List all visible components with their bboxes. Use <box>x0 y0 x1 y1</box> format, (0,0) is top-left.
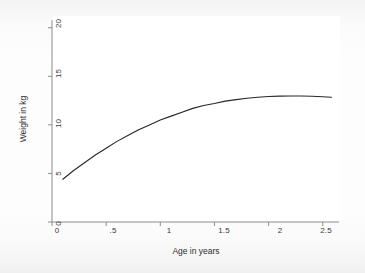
y-axis-ticks <box>48 28 52 222</box>
chart-figure: 0 .5 1 1.5 2 2.5 0 5 10 15 20 Age in yea… <box>0 0 365 273</box>
weight-curve <box>63 96 332 179</box>
y-tick-label-4: 20 <box>54 16 63 32</box>
x-axis-title: Age in years <box>172 246 219 256</box>
y-tick-label-2: 10 <box>54 116 63 132</box>
y-tick-label-1: 5 <box>54 167 63 181</box>
y-tick-label-3: 15 <box>54 66 63 82</box>
x-tick-label-1: .5 <box>110 226 117 235</box>
x-tick-label-3: 1.5 <box>218 226 229 235</box>
x-tick-label-2: 1 <box>167 226 172 235</box>
x-tick-label-4: 2 <box>278 226 283 235</box>
y-axis-title: Weight in kg <box>18 96 28 143</box>
y-tick-label-0: 0 <box>54 217 63 231</box>
x-tick-label-5: 2.5 <box>320 226 331 235</box>
